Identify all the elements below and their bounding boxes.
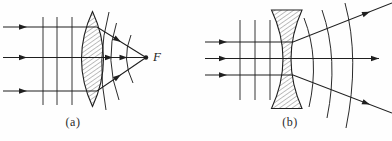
ray-arrowhead-icon (113, 35, 121, 42)
spherical-wavefront-arc (345, 3, 353, 128)
spherical-wavefront-arc (111, 23, 119, 100)
ray-arrowhead-icon (219, 56, 227, 61)
light-ray (3, 58, 146, 92)
ray-arrowhead-icon (219, 72, 227, 77)
panel-a (3, 12, 148, 111)
spherical-wavefront-arc (304, 18, 313, 107)
ray-arrowhead-icon (219, 39, 227, 44)
biconvex-lens (82, 12, 104, 107)
optics-figure: (a) (b) F (0, 0, 392, 141)
panel-a-caption: (a) (66, 115, 81, 130)
ray-arrowhead-icon (19, 55, 27, 60)
panel-b (205, 3, 392, 128)
spherical-wavefront-arc (322, 10, 332, 118)
ray-arrowhead-icon (19, 88, 27, 93)
panel-b-caption: (b) (282, 115, 298, 130)
optics-diagram-canvas (0, 0, 392, 141)
ray-arrowhead-icon (113, 75, 121, 82)
ray-arrowhead-icon (371, 56, 379, 61)
spherical-wavefront-arc (126, 35, 133, 83)
light-ray (205, 3, 392, 42)
ray-arrowhead-icon (362, 12, 370, 17)
light-ray (3, 27, 146, 58)
ray-arrowhead-icon (105, 55, 113, 60)
biconcave-lens (272, 10, 303, 109)
ray-arrowhead-icon (19, 24, 27, 29)
focal-point-label: F (153, 49, 161, 65)
ray-arrowhead-icon (362, 99, 370, 104)
focal-point-dot (144, 55, 148, 59)
